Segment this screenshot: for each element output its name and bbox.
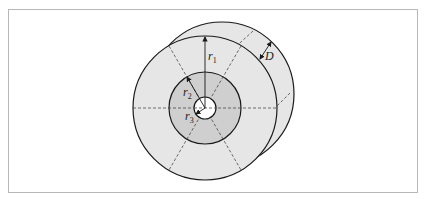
- label-d: D: [264, 49, 274, 63]
- disk-diagram: r1 r2 r3 D: [0, 0, 425, 199]
